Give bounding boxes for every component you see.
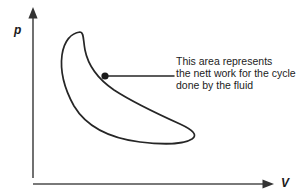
annotation-line-1: This area represents xyxy=(176,55,302,67)
y-axis-arrowhead-icon xyxy=(28,7,37,19)
y-axis-label: p xyxy=(14,24,21,36)
pv-diagram-figure: p V This area represents the nett work f… xyxy=(0,0,304,195)
x-axis-arrowhead-icon xyxy=(263,179,275,188)
annotation-line-2: the nett work for the cycle xyxy=(176,67,302,79)
x-axis xyxy=(33,179,274,188)
diagram-canvas xyxy=(0,0,304,195)
area-marker-dot xyxy=(101,72,108,79)
annotation-line-3: done by the fluid xyxy=(176,79,302,91)
cycle-loop-curve xyxy=(62,32,195,144)
y-axis xyxy=(28,7,37,178)
annotation-text-block: This area represents the nett work for t… xyxy=(176,55,302,92)
x-axis-label: V xyxy=(281,177,289,189)
